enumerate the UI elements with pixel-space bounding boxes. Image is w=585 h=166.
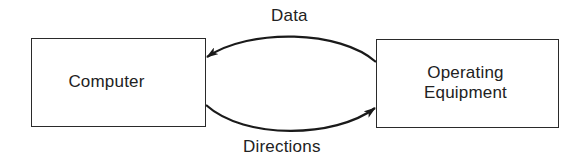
data-flow-diagram: Computer Operating Equipment Data Direct… bbox=[0, 0, 585, 166]
directions-arrow bbox=[206, 105, 375, 131]
computer-label: Computer bbox=[68, 72, 144, 92]
data-edge-label: Data bbox=[271, 6, 308, 26]
directions-edge-label: Directions bbox=[243, 137, 321, 157]
data-arrow bbox=[207, 37, 376, 62]
computer-label-line-1: Computer bbox=[68, 72, 144, 92]
operating-equipment-box: Operating Equipment bbox=[376, 39, 559, 128]
operating-equipment-label: Operating Equipment bbox=[424, 63, 507, 103]
computer-box: Computer bbox=[31, 38, 206, 127]
operating-equipment-label-line-1: Operating bbox=[424, 63, 507, 83]
operating-equipment-label-line-2: Equipment bbox=[424, 83, 507, 103]
